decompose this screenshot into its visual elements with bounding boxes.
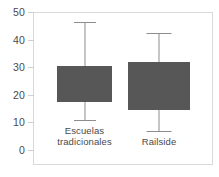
category-label-escuelas-tradicionales: Escuelas tradicionales [57,125,112,148]
category-label-line2: tradicionales [57,136,112,148]
whisker-cap-lower [147,131,172,133]
y-tickmark-20 [28,95,34,96]
y-tick-label-10: 10 [1,117,25,127]
box-rect [128,62,190,110]
whisker-cap-upper [74,22,96,24]
whisker-line-upper [159,33,160,62]
y-tick-label-0: 0 [1,145,25,155]
y-tickmark-40 [28,40,34,41]
category-label-railside: Railside [142,136,177,148]
category-label-line1: Escuelas [57,125,112,137]
box-plot-group-escuelas-tradicionales: Escuelas tradicionales [57,0,112,177]
y-tickmark-50 [28,12,34,13]
whisker-cap-lower [74,120,96,122]
y-tick-label-40: 40 [1,35,25,45]
y-tickmark-10 [28,122,34,123]
y-tick-label-20: 20 [1,90,25,100]
box-rect [57,66,112,102]
box-plot-chart: 50 40 30 20 10 0 Escuelas tradicionales … [0,0,219,177]
box-plot-group-railside: Railside [128,0,190,177]
whisker-line-lower [84,102,85,120]
y-tick-label-50: 50 [1,7,25,17]
y-tickmark-30 [28,67,34,68]
category-label-line1: Railside [142,136,177,148]
whisker-line-lower [159,110,160,131]
whisker-line-upper [84,22,85,66]
y-axis: 50 40 30 20 10 0 [0,0,33,177]
y-tick-label-30: 30 [1,62,25,72]
whisker-cap-upper [147,33,172,35]
y-tickmark-0 [28,150,34,151]
